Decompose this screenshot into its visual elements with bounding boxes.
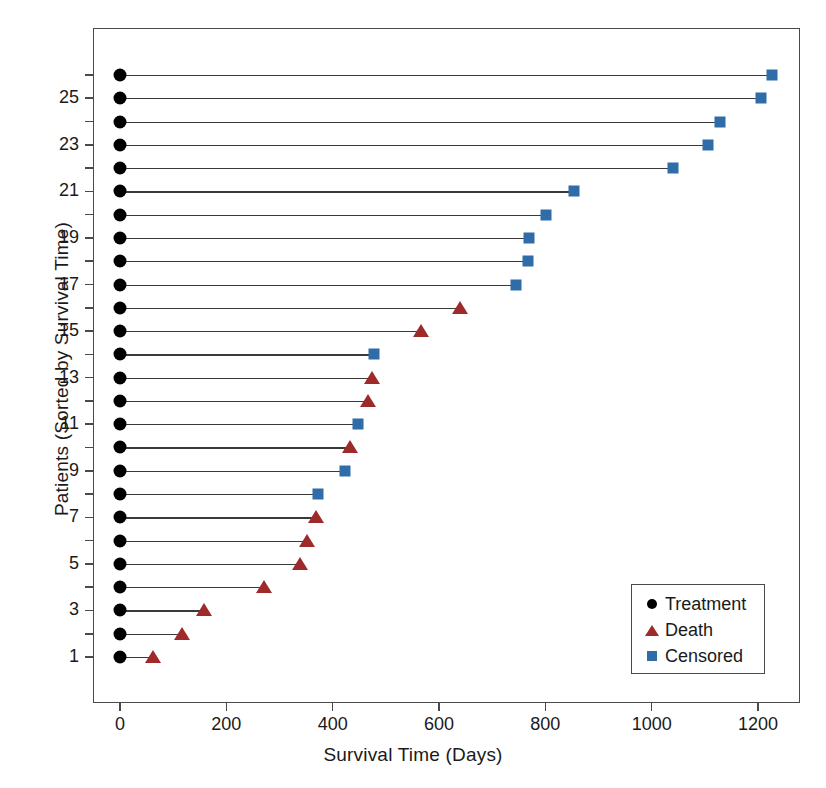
x-tick-label: 600 [399,714,479,735]
x-tick [757,703,759,711]
death-marker [413,324,429,337]
death-marker [452,301,468,314]
censored-marker [353,419,364,430]
censored-marker [339,465,350,476]
censored-marker [312,489,323,500]
treatment-marker [114,92,127,105]
x-tick-label: 800 [505,714,585,735]
circle-marker-icon [642,599,662,609]
treatment-marker [114,301,127,314]
x-axis-title: Survival Time (Days) [0,744,826,766]
death-marker [196,603,212,616]
censored-marker [703,139,714,150]
y-tick [85,144,93,146]
treatment-marker [114,348,127,361]
survival-line [120,447,350,448]
survival-line [120,354,374,355]
y-tick [85,493,93,495]
y-tick [85,517,93,519]
survival-line [120,634,182,635]
legend-item-treatment: Treatment [642,591,764,617]
y-tick [85,307,93,309]
censored-marker [524,232,535,243]
censored-marker [667,163,678,174]
death-marker [256,580,272,593]
triangle-marker-icon [642,625,662,636]
y-tick [85,191,93,193]
legend-item-censored: Censored [642,643,764,669]
censored-marker [756,93,767,104]
x-tick-label: 1000 [612,714,692,735]
survival-line [120,168,673,169]
treatment-marker [114,581,127,594]
y-tick [85,563,93,565]
treatment-marker [114,418,127,431]
censored-marker [569,186,580,197]
survival-line [120,98,761,99]
treatment-marker [114,325,127,338]
x-tick-label: 0 [80,714,160,735]
x-tick [226,703,228,711]
survival-line [120,587,264,588]
survival-line [120,610,204,611]
treatment-marker [114,651,127,664]
treatment-marker [114,208,127,221]
x-tick-label: 200 [186,714,266,735]
survival-swimmer-chart: 020040060080010001200 135791113151719212… [0,0,826,788]
x-tick-label: 400 [293,714,373,735]
y-tick [85,423,93,425]
treatment-marker [114,557,127,570]
y-tick [85,121,93,123]
y-tick [85,214,93,216]
treatment-marker [114,627,127,640]
treatment-marker [114,511,127,524]
y-tick [85,97,93,99]
survival-line [120,261,528,262]
x-tick [119,703,121,711]
treatment-marker [114,255,127,268]
survival-line [120,517,316,518]
censored-marker [714,116,725,127]
x-tick [651,703,653,711]
survival-line [120,541,307,542]
y-tick [85,284,93,286]
y-tick [85,633,93,635]
treatment-marker [114,394,127,407]
survival-line [120,122,720,123]
death-marker [299,534,315,547]
survival-line [120,75,772,76]
y-tick [85,330,93,332]
y-tick [85,400,93,402]
censored-marker [511,279,522,290]
y-tick [85,260,93,262]
square-marker-icon [642,651,662,661]
censored-marker [766,70,777,81]
treatment-marker [114,115,127,128]
y-tick [85,586,93,588]
y-tick [85,540,93,542]
treatment-marker [114,441,127,454]
y-tick [85,167,93,169]
x-tick [332,703,334,711]
survival-line [120,285,516,286]
survival-line [120,424,358,425]
survival-line [120,215,546,216]
survival-line [120,308,460,309]
treatment-marker [114,488,127,501]
chart-legend: Treatment Death Censored [631,584,765,674]
death-marker [360,394,376,407]
survival-line [120,191,574,192]
censored-marker [540,209,551,220]
survival-line [120,401,368,402]
survival-line [120,564,300,565]
y-tick [85,354,93,356]
x-tick-label: 1200 [718,714,798,735]
death-marker [292,557,308,570]
legend-item-death: Death [642,617,764,643]
legend-label-treatment: Treatment [665,594,746,615]
treatment-marker [114,464,127,477]
treatment-marker [114,231,127,244]
censored-marker [522,256,533,267]
treatment-marker [114,534,127,547]
y-axis-title: Patients (Sorted by Survival Time) [51,49,73,689]
